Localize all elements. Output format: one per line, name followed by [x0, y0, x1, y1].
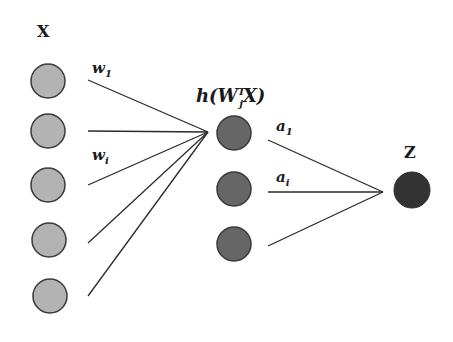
hidden-node [217, 116, 251, 150]
output-label: Z [404, 143, 416, 162]
background [0, 0, 453, 342]
input-node [32, 223, 66, 257]
input-node [31, 168, 65, 202]
input-node [31, 64, 65, 98]
input-node [31, 114, 65, 148]
input-layer-label: X [37, 22, 50, 41]
hidden-layer-function-label: h(WTjX) [196, 85, 265, 109]
output-node [394, 172, 430, 208]
hidden-layer [217, 116, 251, 261]
input-node [33, 279, 67, 313]
hidden-node [217, 172, 251, 206]
hidden-node [217, 227, 251, 261]
neural-network-diagram: X w1 wi h(WTjX) a1 ai Z [0, 0, 453, 342]
